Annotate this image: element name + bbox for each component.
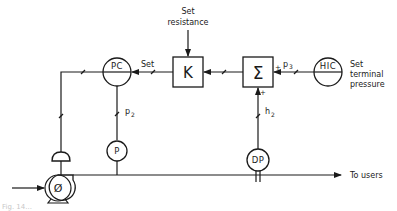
summing-block: Σ + + xyxy=(243,57,281,97)
control-diagram: Set resistance K Σ + + HIC Set terminal … xyxy=(0,0,397,211)
h2-label: h xyxy=(265,107,270,116)
hic-label: HIC xyxy=(320,61,336,71)
p3-label: p xyxy=(283,60,288,69)
pressure-transmitter: P xyxy=(107,141,127,175)
dp-transmitter: DP xyxy=(247,149,269,182)
pump-icon: Ø xyxy=(12,175,75,203)
dp-label: DP xyxy=(252,155,265,165)
set-terminal-line2: terminal xyxy=(350,70,383,79)
p2-subscript: 2 xyxy=(131,111,135,118)
set-terminal-line1: Set xyxy=(350,60,363,69)
k-to-pc-signal: Set xyxy=(132,60,173,74)
sigma-icon: Σ xyxy=(253,63,264,83)
plus-sign-bottom: + xyxy=(260,89,266,97)
p2-signal: p 2 xyxy=(115,86,135,140)
valve-actuator-icon xyxy=(52,152,70,176)
h2-subscript: 2 xyxy=(271,111,275,118)
set-resistance-label-line1: Set xyxy=(181,7,194,16)
pc-label: PC xyxy=(111,61,123,71)
pump-symbol: Ø xyxy=(54,182,63,195)
plus-sign-right: + xyxy=(275,64,281,72)
set-signal-label: Set xyxy=(141,60,154,69)
set-resistance-label-line2: resistance xyxy=(167,18,208,27)
figure-caption: Fig. 14... xyxy=(2,203,32,211)
sum-to-k-signal xyxy=(204,70,243,74)
to-users-label: To users xyxy=(349,171,383,180)
hic-controller: HIC xyxy=(314,58,342,86)
main-pipe: To users xyxy=(73,171,383,180)
pc-to-actuator-signal xyxy=(59,70,103,155)
set-resistance-input: Set resistance xyxy=(167,7,208,56)
k-block: K xyxy=(173,57,203,87)
p3-subscript: 3 xyxy=(289,63,293,70)
set-terminal-line3: pressure xyxy=(350,80,385,89)
p-label: P xyxy=(114,146,120,156)
p2-label: p xyxy=(125,107,130,116)
k-label: K xyxy=(183,64,194,82)
h2-signal: h 2 xyxy=(256,88,275,149)
set-terminal-pressure-label: Set terminal pressure xyxy=(350,60,385,89)
pc-controller: PC xyxy=(103,58,131,86)
